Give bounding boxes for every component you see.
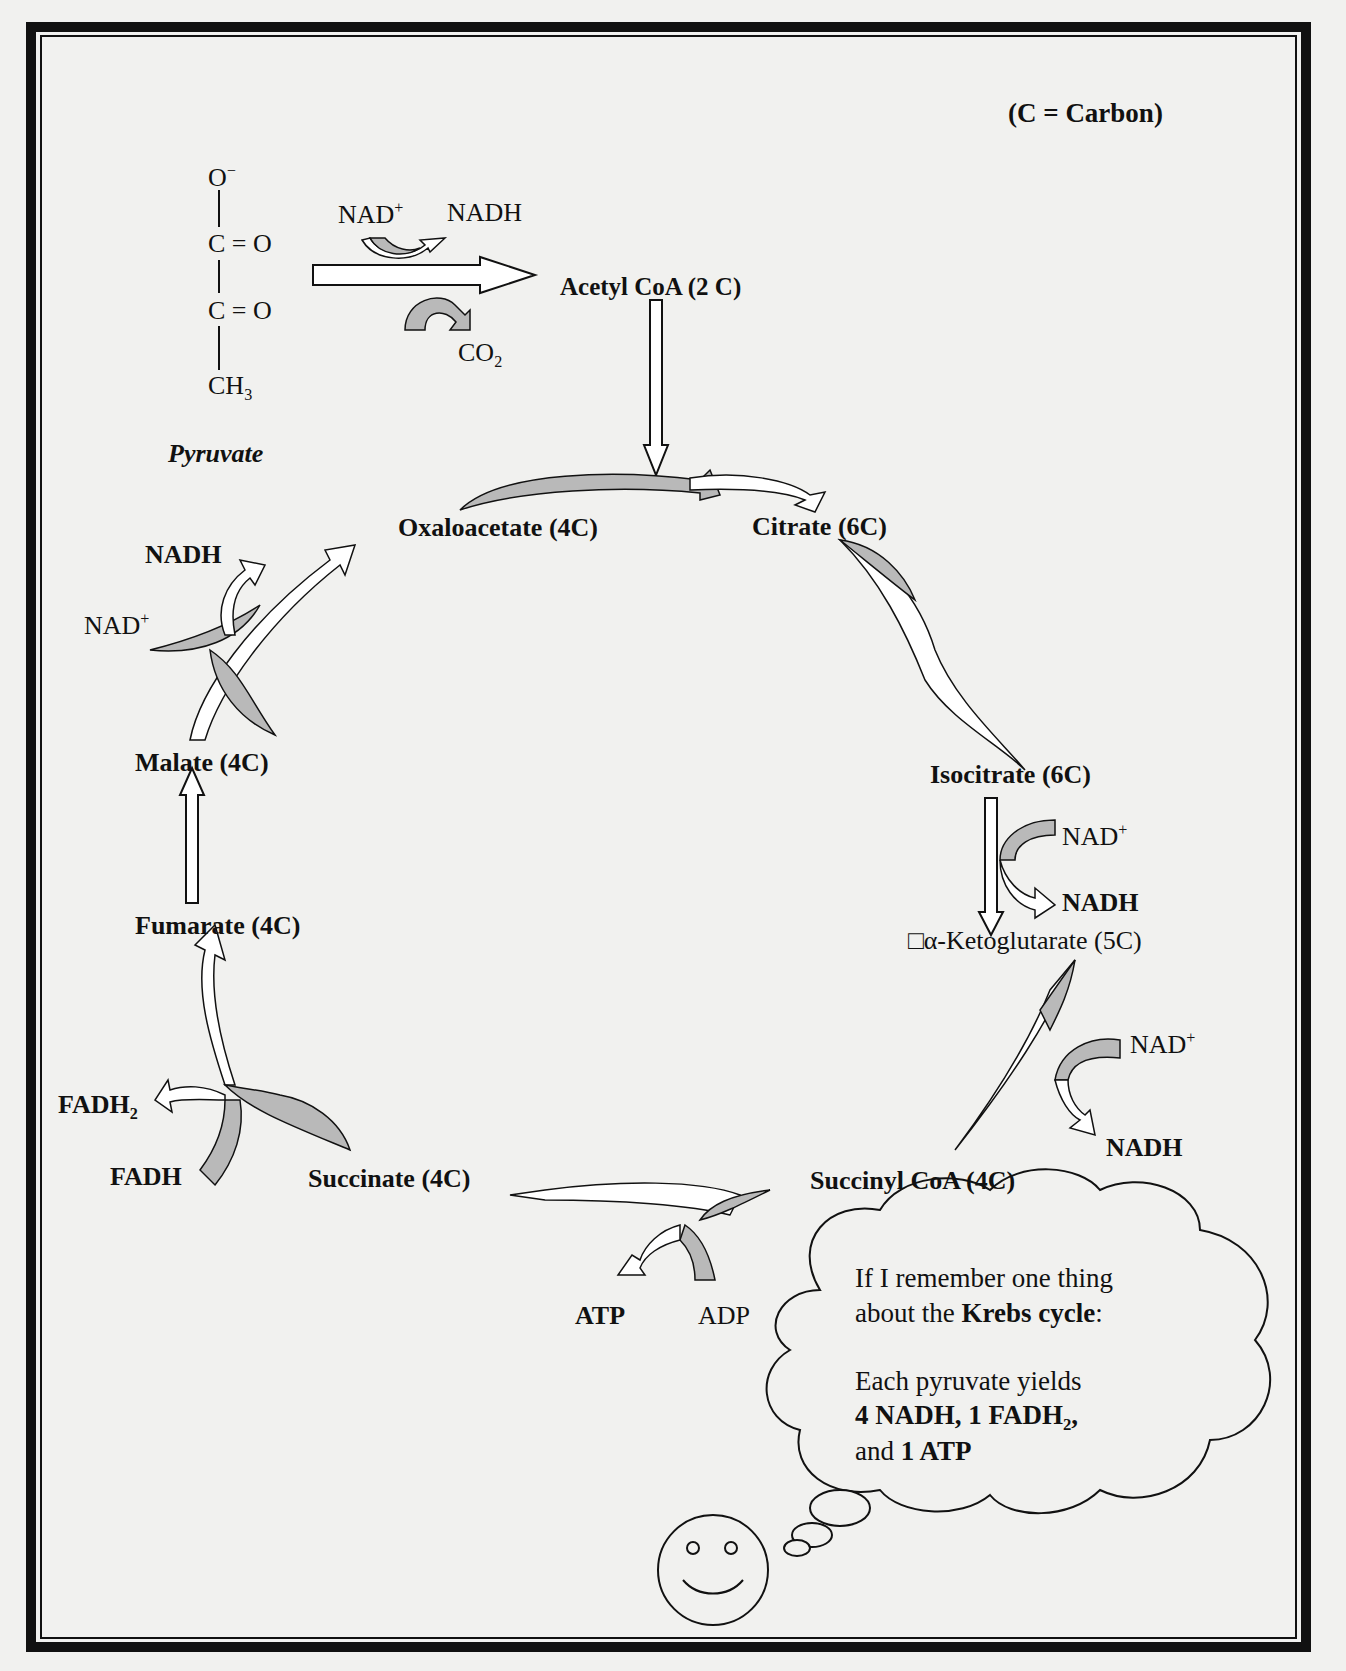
thought-bubble-small xyxy=(784,1540,810,1556)
thought-bubble-small xyxy=(810,1490,870,1526)
carbon-legend: (C = Carbon) xyxy=(1008,100,1163,127)
iso-nad-label: NAD+ xyxy=(1062,822,1127,850)
pyruvate-carbonyl-1: C = O xyxy=(208,231,272,257)
fumarate-malate-arrow xyxy=(180,768,204,903)
atp-label: ATP xyxy=(575,1303,625,1329)
pyruvate-carbonyl-2: C = O xyxy=(208,298,272,324)
smiley-face-icon xyxy=(658,1515,768,1625)
fadh-arrow xyxy=(200,1100,241,1185)
fumarate-label: Fumarate (4C) xyxy=(135,913,300,939)
decarb-nad: NAD+ xyxy=(338,200,403,228)
mal-nad-label: NAD+ xyxy=(84,611,149,639)
thought-line-3: Each pyruvate yields xyxy=(855,1368,1081,1395)
pyruvate-to-acetylcoa-arrow xyxy=(313,257,535,293)
oxaloacetate-citrate-arc xyxy=(460,470,720,510)
oxaloacetate-label: Oxaloacetate (4C) xyxy=(398,515,598,541)
adp-arrow xyxy=(680,1225,715,1280)
succinate-label: Succinate (4C) xyxy=(308,1166,470,1192)
citrate-isocitrate-arrow xyxy=(840,540,1025,770)
mal-nadh-label: NADH xyxy=(145,542,222,568)
thought-cloud xyxy=(767,1169,1271,1513)
malate-label: Malate (4C) xyxy=(135,750,269,776)
fadh2-arrow xyxy=(155,1080,225,1112)
akg-nadh-label: NADH xyxy=(1106,1135,1183,1161)
akg-nad-arrow xyxy=(1055,1039,1120,1080)
succinylcoa-succinate-arrow xyxy=(510,1183,740,1215)
thought-line-5: and 1 ATP xyxy=(855,1438,972,1465)
isocitrate-akg-arrow xyxy=(979,798,1003,935)
pyruvate-methyl: CH3 xyxy=(208,373,252,403)
atp-arrow xyxy=(618,1225,680,1275)
isocitrate-label: Isocitrate (6C) xyxy=(930,762,1091,788)
iso-nad-arrow xyxy=(1000,820,1055,860)
iso-nadh-arrow xyxy=(1000,860,1055,918)
decarb-co2: CO2 xyxy=(458,340,502,370)
acetylcoa-down-arrow xyxy=(644,300,668,475)
citrate-label: Citrate (6C) xyxy=(752,514,887,540)
alpha-ketoglutarate-label: □α-Ketoglutarate (5C) xyxy=(908,928,1142,954)
decarb-nadh: NADH xyxy=(447,200,522,226)
adp-label: ADP xyxy=(698,1303,750,1329)
akg-nad-label: NAD+ xyxy=(1130,1030,1195,1058)
thought-line-2: about the Krebs cycle: xyxy=(855,1300,1103,1327)
acetyl-coa-label: Acetyl CoA (2 C) xyxy=(560,274,741,299)
akg-nadh-arrow xyxy=(1055,1080,1095,1135)
co2-release-arrow xyxy=(405,298,470,330)
fadh-label: FADH xyxy=(110,1164,182,1190)
succinyl-coa-label: Succinyl CoA (4C) xyxy=(810,1168,1015,1194)
diagram-arrows xyxy=(0,0,1346,1671)
succinate-fumarate-arrow xyxy=(195,925,235,1085)
pyruvate-label: Pyruvate xyxy=(168,441,263,467)
thought-line-1: If I remember one thing xyxy=(855,1265,1113,1292)
fadh2-label: FADH2 xyxy=(58,1092,138,1122)
pyruvate-oxygen: O− xyxy=(208,163,236,191)
iso-nadh-label: NADH xyxy=(1062,890,1139,916)
thought-line-4: 4 NADH, 1 FADH2, xyxy=(855,1402,1078,1434)
